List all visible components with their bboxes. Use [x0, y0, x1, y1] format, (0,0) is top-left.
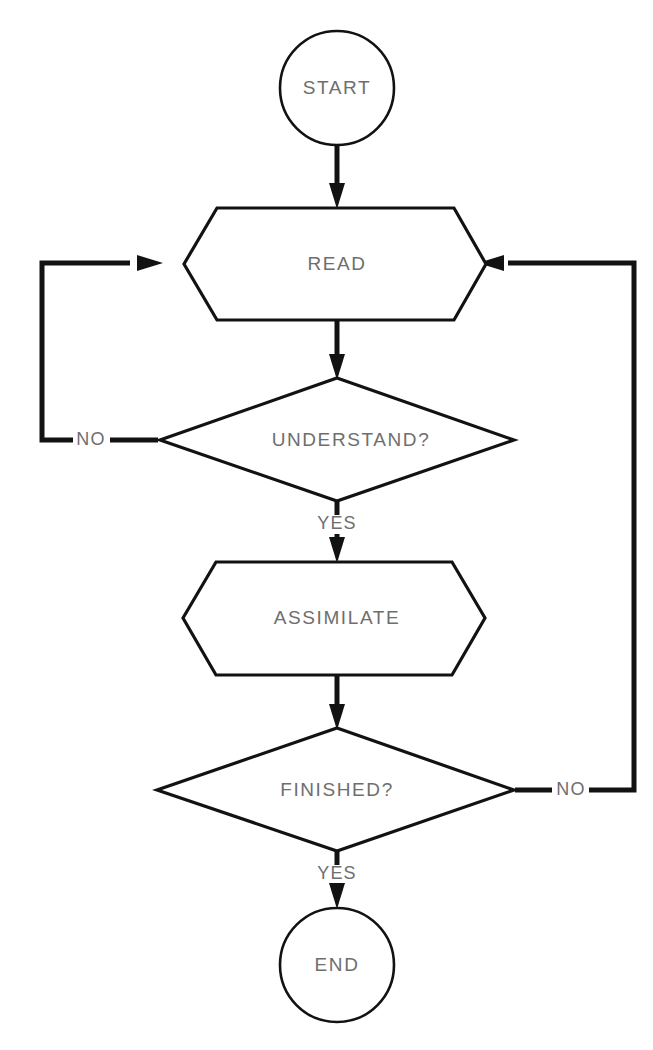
connector-understand-no-to-read: [42, 255, 163, 440]
node-end[interactable]: END: [280, 908, 394, 1022]
understand-label: UNDERSTAND?: [272, 429, 431, 450]
node-assimilate[interactable]: ASSIMILATE: [183, 562, 485, 675]
connector-finished-no-to-read: [478, 255, 634, 790]
connector-read-to-understand: [329, 320, 345, 380]
finished-label: FINISHED?: [280, 779, 394, 800]
connector-assimilate-to-finished: [329, 675, 345, 730]
node-read[interactable]: READ: [184, 208, 486, 320]
node-finished[interactable]: FINISHED?: [157, 728, 514, 851]
edge-label-understand-no: NO: [76, 429, 105, 449]
edge-label-finished-no: NO: [556, 779, 585, 799]
connector-start-to-read: [329, 146, 345, 209]
end-label: END: [315, 954, 360, 975]
page-caption-remnant: [0, 1044, 653, 1050]
edge-label-understand-yes: YES: [317, 513, 357, 533]
node-start[interactable]: START: [280, 31, 394, 145]
assimilate-label: ASSIMILATE: [274, 607, 401, 628]
flowchart-diagram: START READ UNDERSTAND? ASSIMILATE FINISH…: [0, 0, 653, 1050]
flowchart-canvas: START READ UNDERSTAND? ASSIMILATE FINISH…: [0, 0, 653, 1050]
read-label: READ: [307, 253, 366, 274]
edge-label-finished-yes: YES: [317, 863, 357, 883]
node-understand[interactable]: UNDERSTAND?: [160, 378, 514, 501]
start-label: START: [303, 77, 372, 98]
